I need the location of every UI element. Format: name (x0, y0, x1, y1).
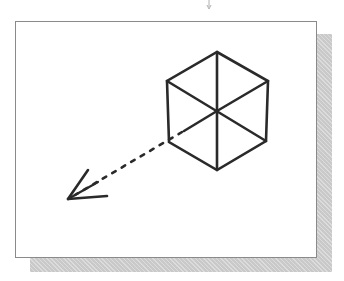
view-direction-arrow (68, 132, 182, 199)
cube-drawing (0, 0, 344, 281)
isometric-cube (167, 52, 268, 170)
cube-edge-diag-2 (217, 81, 268, 111)
cube-edge-diag-2b (184, 111, 217, 131)
cube-center-vertex (215, 109, 219, 113)
